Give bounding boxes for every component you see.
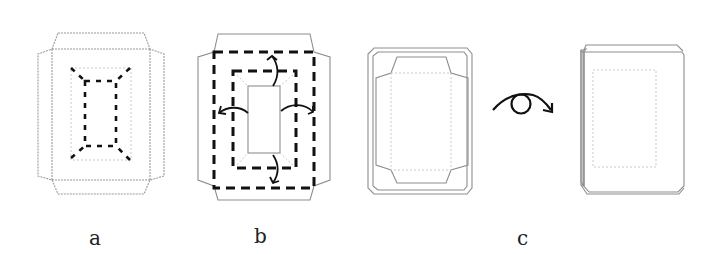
figure-a-fold-lines: [85, 81, 116, 146]
figure-b-net-outline: [198, 34, 330, 200]
step-label-b: b: [254, 226, 267, 246]
figure-a-net-outline: [38, 33, 164, 194]
step-label-c: c: [517, 228, 528, 248]
figure-c-flap-outline: [376, 57, 468, 183]
figure-a: [38, 33, 164, 194]
folding-diagram: [0, 0, 715, 254]
figure-b: [198, 34, 330, 200]
flip-over-rotation-icon: [493, 94, 552, 113]
figure-c-folded-back: [580, 45, 684, 194]
figure-c-folded-front: [368, 48, 472, 194]
step-label-a: a: [89, 228, 101, 248]
